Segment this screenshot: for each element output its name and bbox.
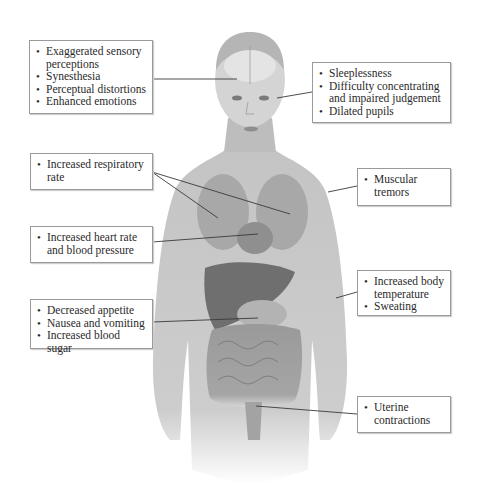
callout-stomach: Decreased appetite Nausea and vomiting I…	[30, 299, 153, 349]
callout-uterus: Uterine contractions	[357, 396, 451, 433]
intestines	[206, 324, 302, 407]
callout-brain: Exaggerated sensory perceptions Synesthe…	[29, 40, 153, 114]
eye-right	[259, 96, 269, 101]
callout-muscles: Muscular tremors	[357, 168, 451, 206]
callout-item: Increased blood sugar	[37, 329, 146, 354]
callout-item: Dilated pupils	[319, 105, 444, 118]
callout-heart: Increased heart rate and blood pressure	[30, 226, 153, 263]
callout-item: Sweating	[364, 300, 444, 313]
callout-item: Uterine contractions	[364, 401, 444, 426]
callout-item: Sleeplessness	[319, 67, 444, 80]
callout-item: Decreased appetite	[37, 304, 146, 317]
callout-item: Perceptual distortions	[36, 83, 146, 96]
callout-item: Muscular tremors	[364, 173, 444, 198]
callout-skin: Increased body temperature Sweating	[357, 270, 451, 316]
eye-left	[232, 96, 242, 101]
mouth	[244, 127, 258, 132]
callout-item: Increased heart rate and blood pressure	[37, 231, 146, 256]
callout-item: Increased body temperature	[364, 275, 444, 300]
uterus	[245, 402, 262, 440]
callout-item: Exaggerated sensory perceptions	[36, 45, 146, 70]
callout-lungs: Increased respiratory rate	[30, 153, 153, 190]
callout-eyes: Sleeplessness Difficulty concentrating a…	[312, 62, 451, 123]
stomach	[237, 300, 287, 328]
callout-item: Enhanced emotions	[36, 95, 146, 108]
callout-item: Difficulty concentrating and impaired ju…	[319, 80, 444, 105]
callout-item: Synesthesia	[36, 70, 146, 83]
callout-item: Increased respiratory rate	[37, 158, 146, 183]
head	[215, 32, 285, 132]
callout-item: Nausea and vomiting	[37, 317, 146, 330]
heart	[237, 222, 273, 254]
